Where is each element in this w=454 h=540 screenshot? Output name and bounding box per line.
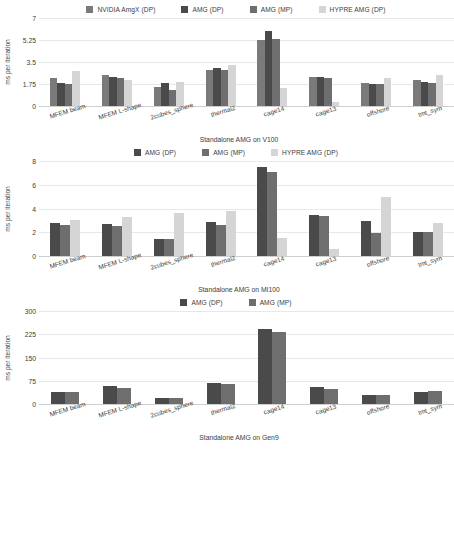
legend-swatch-icon — [180, 299, 187, 306]
bar-amg-dp-mfem-beam[interactable] — [50, 223, 60, 256]
x-tick-label: cage13 — [315, 403, 337, 416]
bar-amg-mp-offshore[interactable] — [371, 233, 381, 256]
legend-item-amg-dp[interactable]: AMG (DP) — [181, 6, 223, 13]
bar-hypre-amg-dp-offshore[interactable] — [381, 197, 391, 256]
bar-group-mfem-l-shape — [91, 18, 143, 106]
bar-amg-dp-tmt-sym[interactable] — [414, 392, 428, 404]
bar-amg-mp-tmt-sym[interactable] — [428, 83, 436, 106]
axes — [39, 311, 454, 404]
bar-amg-dp-cage14[interactable] — [265, 31, 273, 106]
bar-hypre-amg-dp-mfem-beam[interactable] — [72, 71, 80, 106]
bar-amg-mp-mfem-l-shape[interactable] — [112, 226, 122, 256]
x-tick-mfem-l-shape: MFEM L-shape — [91, 106, 143, 136]
bar-nvidia-amgx-dp-thermal2[interactable] — [206, 70, 214, 106]
legend-item-amg-dp[interactable]: AMG (DP) — [134, 149, 176, 156]
bar-amg-dp-mfem-l-shape[interactable] — [103, 386, 117, 404]
bar-hypre-amg-dp-2cubes-sphere[interactable] — [174, 213, 184, 256]
x-tick-label: cage14 — [263, 105, 285, 118]
bar-amg-mp-mfem-l-shape[interactable] — [117, 78, 125, 106]
x-axis-title: Standalone AMG on MI100 — [0, 286, 454, 293]
legend-item-label: AMG (DP) — [191, 299, 222, 306]
bar-amg-dp-offshore[interactable] — [361, 221, 371, 256]
bar-hypre-amg-dp-tmt-sym[interactable] — [436, 75, 444, 106]
bar-amg-mp-mfem-beam[interactable] — [60, 225, 70, 256]
bar-hypre-amg-dp-mfem-beam[interactable] — [70, 220, 80, 256]
bar-amg-mp-cage13[interactable] — [319, 216, 329, 256]
y-axis-ticks: 02468 — [13, 161, 39, 256]
bar-amg-dp-2cubes-sphere[interactable] — [161, 83, 169, 106]
bar-amg-mp-thermal2[interactable] — [216, 225, 226, 256]
legend-item-amg-mp[interactable]: AMG (MP) — [250, 6, 293, 13]
bar-amg-mp-tmt-sym[interactable] — [423, 232, 433, 256]
figure-root: NVIDIA AmgX (DP)AMG (DP)AMG (MP)HYPRE AM… — [0, 0, 454, 540]
bar-amg-dp-thermal2[interactable] — [207, 383, 221, 404]
bar-amg-mp-cage14[interactable] — [267, 172, 277, 256]
bar-nvidia-amgx-dp-cage13[interactable] — [309, 77, 317, 106]
legend-item-hypre-amg-dp[interactable]: HYPRE AMG (DP) — [319, 6, 386, 13]
bar-amg-dp-thermal2[interactable] — [206, 222, 216, 256]
bar-hypre-amg-dp-2cubes-sphere[interactable] — [176, 82, 184, 106]
bar-amg-mp-mfem-beam[interactable] — [65, 84, 73, 106]
bar-amg-mp-cage14[interactable] — [272, 39, 280, 106]
bar-hypre-amg-dp-tmt-sym[interactable] — [433, 223, 443, 256]
bar-group-cage14 — [247, 161, 299, 256]
x-tick-mfem-l-shape: MFEM L-shape — [91, 404, 143, 434]
bar-amg-dp-tmt-sym[interactable] — [421, 82, 429, 107]
bar-amg-dp-cage13[interactable] — [310, 387, 324, 404]
bar-nvidia-amgx-dp-2cubes-sphere[interactable] — [154, 87, 162, 106]
bar-amg-dp-mfem-l-shape[interactable] — [109, 77, 117, 106]
bar-hypre-amg-dp-mfem-l-shape[interactable] — [124, 80, 132, 106]
bar-amg-dp-cage14[interactable] — [258, 329, 272, 404]
x-tick-offshore: offshore — [350, 256, 402, 286]
panel-v100: NVIDIA AmgX (DP)AMG (DP)AMG (MP)HYPRE AM… — [0, 0, 454, 143]
legend-item-amg-mp[interactable]: AMG (MP) — [249, 299, 292, 306]
bar-nvidia-amgx-dp-mfem-beam[interactable] — [50, 78, 58, 106]
legend-swatch-icon — [134, 149, 141, 156]
legend-item-amg-dp[interactable]: AMG (DP) — [180, 299, 222, 306]
bar-nvidia-amgx-dp-offshore[interactable] — [361, 83, 369, 106]
legend-item-hypre-amg-dp[interactable]: HYPRE AMG (DP) — [271, 149, 338, 156]
bar-amg-dp-offshore[interactable] — [362, 395, 376, 404]
bar-group-thermal2 — [195, 161, 247, 256]
bar-amg-mp-cage14[interactable] — [272, 332, 286, 404]
bar-amg-dp-tmt-sym[interactable] — [413, 232, 423, 256]
bar-hypre-amg-dp-offshore[interactable] — [384, 78, 392, 106]
x-tick-offshore: offshore — [350, 404, 402, 434]
bar-hypre-amg-dp-mfem-l-shape[interactable] — [122, 217, 132, 256]
bar-amg-dp-mfem-beam[interactable] — [51, 392, 65, 404]
bar-group-tmt-sym — [402, 18, 454, 106]
bar-hypre-amg-dp-cage14[interactable] — [277, 238, 287, 256]
bar-amg-mp-2cubes-sphere[interactable] — [169, 90, 177, 106]
bar-amg-dp-mfem-beam[interactable] — [57, 83, 65, 106]
x-tick-label: thermal2 — [209, 104, 235, 118]
legend-item-amg-mp[interactable]: AMG (MP) — [202, 149, 245, 156]
bar-nvidia-amgx-dp-cage14[interactable] — [257, 40, 265, 106]
bar-amg-mp-thermal2[interactable] — [221, 70, 229, 106]
bar-amg-mp-offshore[interactable] — [376, 84, 384, 106]
x-tick-label: tmt_sym — [417, 104, 443, 118]
bar-amg-dp-cage13[interactable] — [317, 77, 325, 106]
bar-nvidia-amgx-dp-mfem-l-shape[interactable] — [102, 75, 110, 106]
x-axis-tick-labels: MFEM beamMFEM L-shape2cubes_spheretherma… — [39, 106, 454, 136]
bar-group-thermal2 — [195, 311, 247, 404]
bar-amg-mp-thermal2[interactable] — [221, 384, 235, 404]
bar-amg-mp-2cubes-sphere[interactable] — [164, 239, 174, 256]
bar-amg-dp-thermal2[interactable] — [213, 68, 221, 106]
bar-group-tmt-sym — [402, 161, 454, 256]
bar-amg-mp-cage13[interactable] — [324, 389, 338, 405]
x-tick-thermal2: thermal2 — [195, 106, 247, 136]
bar-nvidia-amgx-dp-tmt-sym[interactable] — [413, 80, 421, 106]
bar-amg-mp-cage13[interactable] — [324, 78, 332, 106]
bar-amg-dp-2cubes-sphere[interactable] — [154, 239, 164, 256]
legend-item-nvidia-amgx-dp[interactable]: NVIDIA AmgX (DP) — [86, 6, 155, 13]
bar-groups — [39, 18, 454, 106]
bar-hypre-amg-dp-thermal2[interactable] — [228, 65, 236, 106]
x-tick-cage14: cage14 — [247, 404, 299, 434]
bar-amg-dp-mfem-l-shape[interactable] — [102, 224, 112, 256]
bar-hypre-amg-dp-cage14[interactable] — [280, 88, 288, 106]
bar-amg-dp-offshore[interactable] — [369, 84, 377, 106]
bar-amg-dp-cage14[interactable] — [257, 167, 267, 256]
bar-group-offshore — [350, 311, 402, 404]
bar-amg-dp-cage13[interactable] — [309, 215, 319, 256]
bar-hypre-amg-dp-thermal2[interactable] — [226, 211, 236, 256]
